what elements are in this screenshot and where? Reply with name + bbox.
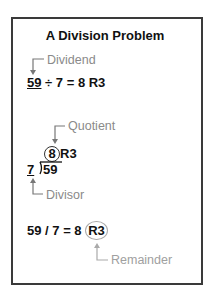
arrows-overlay (0, 0, 210, 297)
quotient-arrow-icon (55, 126, 65, 141)
division-bracket-icon (40, 162, 42, 174)
remainder-arrow-icon (97, 246, 108, 260)
